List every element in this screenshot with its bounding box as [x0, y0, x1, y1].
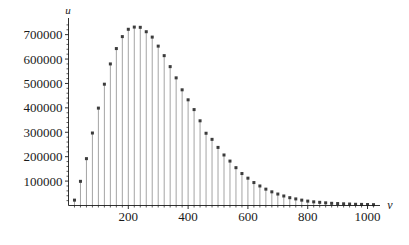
- x-tick-label: 600: [238, 209, 258, 224]
- x-tick-label: 1000: [355, 209, 381, 224]
- data-point-marker: [91, 132, 94, 135]
- y-tick-label: 700000: [24, 27, 63, 42]
- data-point-marker: [228, 160, 231, 163]
- data-point-marker: [127, 28, 130, 31]
- data-point-marker: [342, 202, 345, 205]
- data-point-marker: [175, 76, 178, 79]
- data-point-marker: [288, 196, 291, 199]
- data-point-marker: [133, 26, 136, 29]
- data-point-marker: [169, 65, 172, 68]
- data-point-marker: [294, 197, 297, 200]
- data-point-marker: [300, 199, 303, 202]
- y-axis: [65, 18, 69, 206]
- data-point-marker: [109, 62, 112, 65]
- data-point-marker: [282, 194, 285, 197]
- y-tick-label: 300000: [24, 125, 63, 140]
- x-axis-label: ν: [387, 198, 393, 212]
- data-point-marker: [205, 132, 208, 135]
- stems-group: [74, 27, 373, 205]
- y-tick-label: 500000: [24, 76, 63, 91]
- y-axis-label: u: [65, 4, 71, 16]
- data-point-marker: [270, 190, 273, 193]
- data-point-marker: [97, 107, 100, 110]
- data-point-marker: [181, 88, 184, 91]
- stem-plot-svg: 2004006008001000 10000020000030000040000…: [0, 0, 409, 245]
- data-point-marker: [258, 184, 261, 187]
- y-tick-label: 100000: [24, 174, 63, 189]
- data-point-marker: [85, 157, 88, 160]
- data-point-marker: [223, 153, 226, 156]
- data-point-marker: [199, 119, 202, 122]
- data-point-marker: [264, 188, 267, 191]
- data-point-marker: [312, 200, 315, 203]
- chart-figure: 2004006008001000 10000020000030000040000…: [0, 0, 409, 245]
- data-point-marker: [276, 193, 279, 196]
- data-point-marker: [145, 30, 148, 33]
- data-point-marker: [234, 166, 237, 169]
- data-point-marker: [252, 181, 255, 184]
- data-point-marker: [157, 45, 160, 48]
- data-point-marker: [330, 202, 333, 205]
- data-point-marker: [240, 172, 243, 175]
- data-point-marker: [115, 47, 118, 50]
- data-point-marker: [151, 36, 154, 39]
- data-point-marker: [324, 201, 327, 204]
- data-point-marker: [103, 83, 106, 86]
- y-tick-label: 600000: [24, 52, 63, 67]
- data-point-marker: [121, 35, 124, 38]
- data-point-marker: [193, 108, 196, 111]
- x-tick-label: 200: [119, 209, 139, 224]
- data-point-marker: [187, 98, 190, 101]
- data-point-marker: [306, 200, 309, 203]
- x-tick-labels: 2004006008001000: [119, 209, 381, 224]
- x-axis: [69, 206, 381, 210]
- y-tick-label: 200000: [24, 149, 63, 164]
- data-point-marker: [217, 146, 220, 149]
- data-point-marker: [336, 202, 339, 205]
- data-point-marker: [318, 201, 321, 204]
- y-tick-labels: 1000002000003000004000005000006000007000…: [24, 27, 63, 188]
- data-point-marker: [211, 138, 214, 141]
- data-point-marker: [139, 26, 142, 29]
- data-point-marker: [246, 177, 249, 180]
- x-tick-label: 400: [178, 209, 198, 224]
- data-point-marker: [73, 199, 76, 202]
- x-tick-label: 800: [298, 209, 318, 224]
- data-point-marker: [79, 180, 82, 183]
- data-point-marker: [163, 54, 166, 57]
- y-tick-label: 400000: [24, 100, 63, 115]
